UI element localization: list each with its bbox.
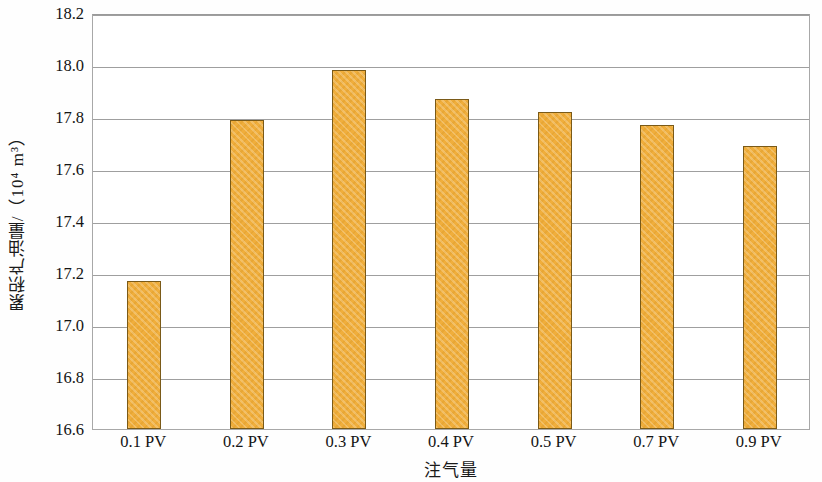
- y-axis-tick-label: 16.6: [55, 422, 84, 439]
- bar-slot: [298, 15, 401, 429]
- y-axis-tick-label: 17.4: [55, 214, 84, 231]
- plot-area: [92, 14, 810, 430]
- y-axis-tick-label: 17.0: [55, 318, 84, 335]
- y-axis-title-text: 累积产油量/（10⁴ m³）: [5, 128, 30, 311]
- bar-slot: [503, 15, 606, 429]
- x-axis-title: 注气量: [92, 456, 810, 481]
- y-axis-tick-label: 17.2: [55, 266, 84, 283]
- x-axis-tick-label: 0.5 PV: [502, 432, 605, 452]
- x-axis-tick-label: 0.7 PV: [605, 432, 708, 452]
- y-axis-tick-label: 18.2: [55, 6, 84, 23]
- bar-slot: [606, 15, 709, 429]
- x-axis-tick-label: 0.1 PV: [92, 432, 195, 452]
- y-axis-tick-labels: 18.218.017.817.617.417.217.016.816.6: [34, 0, 92, 445]
- bar: [435, 99, 469, 429]
- y-axis-tick-label: 16.8: [55, 370, 84, 387]
- bar: [127, 281, 161, 429]
- y-axis-title: 累积产油量/（10⁴ m³）: [0, 0, 34, 440]
- bar-slot: [708, 15, 811, 429]
- bar-slot: [196, 15, 299, 429]
- x-axis-tick-label: 0.3 PV: [297, 432, 400, 452]
- bar: [743, 146, 777, 429]
- y-axis-tick-label: 17.8: [55, 110, 84, 127]
- bar: [640, 125, 674, 429]
- x-axis-tick-label: 0.4 PV: [400, 432, 503, 452]
- bar-chart: 累积产油量/（10⁴ m³） 18.218.017.817.617.417.21…: [0, 0, 822, 482]
- bar: [332, 70, 366, 429]
- bar: [538, 112, 572, 429]
- x-axis-tick-label: 0.9 PV: [707, 432, 810, 452]
- y-axis-tick-label: 17.6: [55, 162, 84, 179]
- x-axis-tick-label: 0.2 PV: [195, 432, 298, 452]
- bar-slot: [93, 15, 196, 429]
- bar: [230, 120, 264, 429]
- bar-slot: [401, 15, 504, 429]
- y-axis-tick-label: 18.0: [55, 58, 84, 75]
- bars-layer: [93, 15, 809, 429]
